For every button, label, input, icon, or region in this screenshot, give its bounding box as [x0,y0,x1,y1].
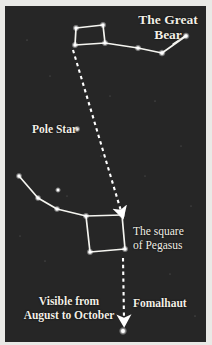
star-glows [16,21,190,335]
pegasus-square-lines [86,215,125,252]
segment-and-3 [57,209,86,216]
star-and-2 [37,197,40,200]
star-peg-bottom-left [88,250,91,253]
star-fomalhaut [121,329,125,333]
star-and-1 [18,175,21,178]
star-bowl-top-right [102,24,105,27]
star-peg-top-right [120,213,123,216]
star-peg-bottom-right [123,247,126,250]
segment-peg-right [122,215,125,249]
segment-peg-left [86,216,90,252]
label-great-bear: The Great Bear [125,12,206,42]
pointer-line-to-pegasus [73,50,121,211]
label-pegasus-line1: The square [133,225,184,237]
star-and-4 [56,208,59,211]
andromeda-chain-stars [18,175,60,211]
star-bowl-bottom-right [104,42,107,45]
star-chart-figure: The Great Bear Pole Star The square of P… [0,0,212,345]
star-handle-1 [137,47,140,50]
night-sky-panel: The Great Bear Pole Star The square of P… [5,6,206,342]
background-star-field [20,39,196,316]
segment-bowl-bottom [75,43,105,45]
star-peg-top-left [84,214,87,217]
label-visible-line2: August to October [24,309,115,321]
star-bowl-top-left [75,27,78,30]
pegasus-square-stars [84,213,126,253]
label-visibility-note: Visible from August to October [13,294,125,323]
segment-peg-bottom [90,249,125,252]
star-handle-2 [160,51,163,54]
andromeda-chain-lines [19,176,86,216]
label-square-of-pegasus: The square of Pegasus [133,224,184,252]
star-bowl-bottom-left [74,44,77,47]
label-visible-line1: Visible from [39,295,99,307]
segment-and-1 [19,176,38,198]
label-great-bear-line1: The Great [138,12,197,27]
label-pole-star: Pole Star [32,123,77,136]
label-fomalhaut: Fomalhaut [133,297,187,310]
label-great-bear-line2: Bear [154,27,182,42]
segment-peg-top [86,215,122,216]
constellation-canvas [5,6,206,342]
segment-bowl-top [76,25,103,28]
segment-handle-1 [105,43,138,48]
star-and-3 [57,189,59,191]
label-pegasus-line2: of Pegasus [133,239,183,251]
